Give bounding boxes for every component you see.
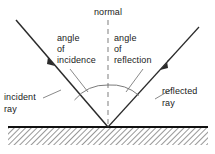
angle-of-reflection-arc	[108, 85, 139, 96]
diagram-canvas	[0, 0, 215, 154]
incident-ray-label-leader	[43, 90, 61, 98]
angle-of-reflection-label-line3: reflection	[114, 55, 152, 66]
reflected-ray-label-line1: reflected	[162, 86, 197, 97]
surface-hatch-fill	[8, 128, 208, 145]
angle-of-reflection-label-line1: angle	[114, 33, 137, 44]
angle-of-incidence-label-line1: angle	[57, 33, 80, 44]
incidence-label-leader	[70, 69, 88, 92]
angle-of-reflection-label-line2: of	[114, 44, 122, 55]
normal-label: normal	[82, 7, 134, 18]
angle-of-incidence-label-line3: incidence	[57, 55, 96, 66]
incident-ray-label-line1: incident	[4, 92, 36, 103]
incident-ray-label-line2: ray	[4, 104, 17, 115]
angle-of-incidence-label-line2: of	[57, 44, 65, 55]
reflection-label-leader	[126, 69, 143, 92]
reflected-ray-label-line2: ray	[162, 98, 175, 109]
reflection-diagram: normal angle of incidence angle of refle…	[0, 0, 215, 154]
angle-of-incidence-arc	[75, 85, 109, 100]
